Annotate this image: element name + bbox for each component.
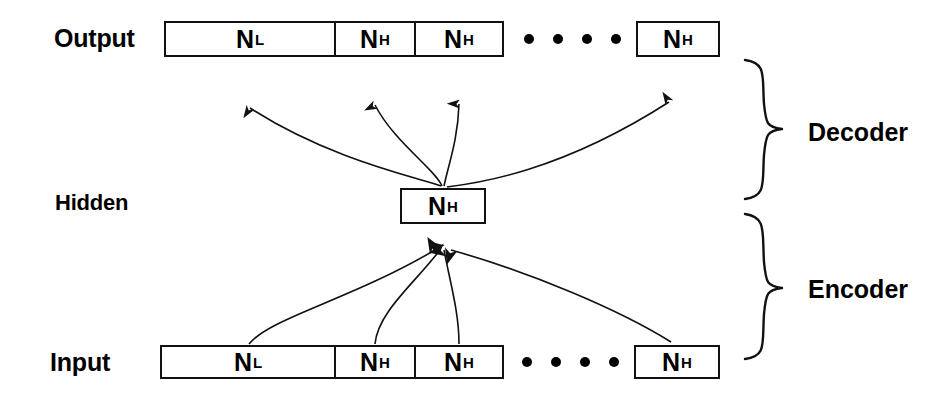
ellipsis-dot (522, 357, 532, 367)
ellipsis-dot (524, 34, 534, 44)
decoder-brace (745, 60, 782, 199)
unit-subscript: L (254, 31, 264, 48)
encoder-brace (745, 214, 782, 359)
unit-symbol: N (444, 350, 462, 375)
layer-label-input: Input (50, 348, 110, 377)
decoder-edge-1 (375, 105, 442, 186)
unit-subscript: H (378, 354, 390, 371)
output-unit-box: NH (334, 21, 416, 57)
ellipsis-dot (582, 34, 592, 44)
ellipsis-dot (611, 34, 621, 44)
unit-symbol: N (444, 27, 462, 52)
unit-subscript: H (462, 354, 474, 371)
unit-subscript: H (446, 198, 458, 215)
section-label-decoder: Decoder (808, 118, 908, 147)
decoder-edges (250, 102, 669, 187)
figure-canvas: Output Hidden Input Decoder Encoder NL N… (0, 0, 940, 399)
unit-symbol: N (236, 27, 254, 52)
decoder-edge-0 (250, 108, 441, 186)
decoder-edge-2 (444, 104, 459, 186)
unit-subscript: H (681, 31, 693, 48)
section-label-encoder: Encoder (808, 275, 908, 304)
hidden-unit-box: NH (400, 188, 486, 224)
encoder-edge-3 (451, 250, 671, 342)
unit-symbol: N (428, 194, 446, 219)
output-ellipsis (524, 34, 621, 44)
unit-symbol: N (662, 350, 680, 375)
unit-symbol: N (234, 350, 252, 375)
input-unit-box: NH (334, 345, 416, 379)
ellipsis-dot (580, 357, 590, 367)
output-unit-box: NL (164, 21, 336, 57)
layer-label-output: Output (54, 24, 135, 53)
layer-label-hidden: Hidden (55, 190, 128, 216)
ellipsis-dot (609, 357, 619, 367)
encoder-edge-2 (444, 250, 459, 344)
input-unit-box: NL (160, 345, 336, 379)
unit-subscript: H (680, 354, 692, 371)
encoder-edge-0 (249, 250, 435, 344)
encoder-edge-1 (375, 250, 440, 344)
ellipsis-dot (551, 357, 561, 367)
input-unit-box: NH (634, 345, 720, 379)
output-unit-box: NH (414, 21, 504, 57)
input-ellipsis (522, 357, 619, 367)
input-unit-box: NH (414, 345, 504, 379)
decoder-edge-3 (447, 102, 669, 187)
unit-subscript: L (252, 354, 262, 371)
unit-symbol: N (663, 27, 681, 52)
unit-symbol: N (360, 27, 378, 52)
unit-subscript: H (378, 31, 390, 48)
encoder-edges (249, 250, 671, 344)
output-unit-box: NH (636, 21, 720, 57)
unit-symbol: N (360, 350, 378, 375)
unit-subscript: H (462, 31, 474, 48)
ellipsis-dot (553, 34, 563, 44)
